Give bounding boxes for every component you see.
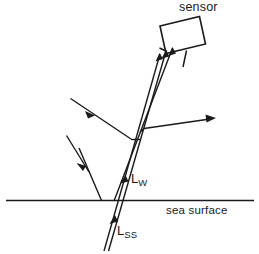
- surface-incident-ray: [79, 148, 102, 201]
- water-leaving-radiance-label: LW: [131, 172, 147, 185]
- reflected-ray-arrowhead: [206, 115, 217, 123]
- sensor-stem-icon: [183, 51, 187, 68]
- sea-surface-radiance-label: LSS: [117, 224, 137, 237]
- lw-arrowhead: [120, 175, 129, 184]
- figure-canvas: sensor sea surface LW LSS: [0, 0, 259, 254]
- upwelling-arrowhead-c: [169, 47, 177, 56]
- lss-subscript: SS: [124, 229, 137, 240]
- upwelling-arrowhead-a: [156, 53, 164, 62]
- incident-ray-upper: [71, 99, 132, 140]
- reflected-ray-right: [144, 119, 210, 129]
- lw-subscript: W: [138, 177, 147, 188]
- sensor-label: sensor: [179, 1, 218, 14]
- sensor-box: [160, 17, 206, 54]
- sea-surface-label: sea surface: [166, 205, 228, 217]
